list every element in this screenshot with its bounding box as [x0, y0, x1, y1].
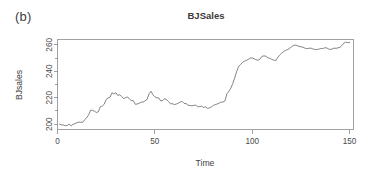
x-axis-ticks: 050100150 [55, 130, 357, 146]
x-tick-label: 150 [343, 137, 357, 146]
x-tick-label: 50 [150, 137, 160, 146]
y-tick-label: 240 [45, 64, 54, 78]
series-line-bjsales [59, 42, 349, 126]
y-axis-ticks: 200220240260 [45, 38, 58, 132]
y-axis-title: BJsales [14, 70, 24, 100]
x-tick-label: 100 [245, 137, 259, 146]
x-tick-label: 0 [55, 137, 60, 146]
y-tick-label: 220 [45, 90, 54, 104]
x-axis-title: Time [196, 158, 215, 168]
y-tick-label: 260 [45, 38, 54, 52]
plot-frame [58, 40, 354, 130]
chart-svg: 200220240260 050100150 BJsales Time [0, 0, 370, 180]
y-tick-label: 200 [45, 117, 54, 131]
chart-plot-area: 200220240260 050100150 BJsales Time [0, 0, 370, 180]
